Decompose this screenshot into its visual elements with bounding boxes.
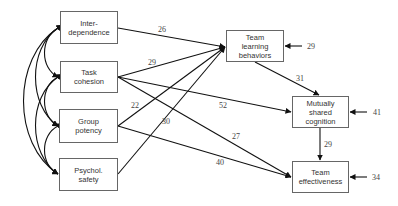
correlation-arcs: [24, 28, 59, 174]
node-label: cognition: [305, 117, 335, 126]
node-interdependence: Inter- dependence: [60, 11, 118, 44]
node-label: cohesion: [74, 77, 104, 86]
node-label: effectiveness: [299, 177, 343, 186]
node-label: behaviors: [239, 51, 272, 60]
node-label: potency: [75, 126, 101, 135]
node-psychol-safety: Psychol. safety: [59, 158, 118, 191]
residual-shared-cognition: 41: [373, 108, 381, 117]
residual-team-effectiveness: 34: [372, 173, 380, 182]
node-label: Group: [78, 117, 99, 126]
node-label: dependence: [68, 28, 109, 37]
node-label: Task: [81, 68, 96, 77]
node-label: Team: [311, 168, 329, 177]
node-label: learning: [242, 42, 269, 51]
coef-learning-cognition: 31: [296, 74, 304, 83]
node-task-cohesion: Task cohesion: [60, 61, 118, 93]
node-team-learning-behaviors: Team learning behaviors: [226, 30, 284, 62]
coef-task-cohesion-effectiveness: 27: [232, 132, 240, 141]
node-group-potency: Group potency: [59, 109, 118, 143]
coef-cognition-effectiveness: 29: [324, 140, 332, 149]
path-diagram: Inter- dependence Task cohesion Group po…: [0, 0, 398, 206]
node-mutually-shared-cognition: Mutually shared cognition: [292, 96, 349, 128]
node-label: safety: [78, 175, 98, 184]
coef-task-cohesion-learning: 29: [148, 58, 156, 67]
node-label: Inter-: [80, 19, 98, 28]
node-label: Team: [246, 33, 264, 42]
coef-group-potency-learning: 22: [131, 101, 139, 110]
residual-team-learning: 29: [307, 42, 315, 51]
coef-interdependence-learning: 26: [158, 25, 166, 34]
coef-task-cohesion-cognition: 52: [219, 101, 227, 110]
node-label: shared: [309, 108, 332, 117]
node-label: Psychol.: [74, 166, 102, 175]
coef-group-potency-effectiveness: 40: [216, 158, 224, 167]
coef-psychol-safety-learning: 30: [162, 117, 170, 126]
node-team-effectiveness: Team effectiveness: [292, 161, 349, 193]
node-label: Mutually: [307, 99, 335, 108]
